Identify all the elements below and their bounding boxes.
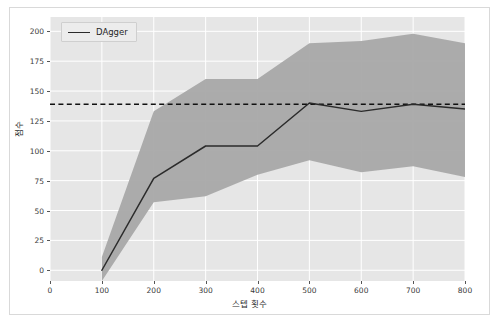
confidence-band bbox=[102, 34, 465, 281]
y-tick-label: 25 bbox=[22, 236, 44, 245]
y-tick-label: 75 bbox=[22, 176, 44, 185]
x-axis-label: 스텝 횟수 bbox=[0, 297, 499, 309]
y-tick-mark bbox=[47, 91, 50, 92]
x-tick-label: 600 bbox=[354, 286, 368, 295]
chart-figure: DAgger 0255075100125150175200 0100200300… bbox=[0, 0, 499, 323]
legend-item-label: DAgger bbox=[96, 27, 128, 37]
y-tick-mark bbox=[47, 61, 50, 62]
plot-region: DAgger bbox=[50, 17, 465, 281]
y-tick-label: 175 bbox=[22, 57, 44, 66]
y-tick-label: 50 bbox=[22, 206, 44, 215]
y-tick-mark bbox=[47, 121, 50, 122]
x-tick-label: 500 bbox=[302, 286, 316, 295]
y-tick-label: 125 bbox=[22, 116, 44, 125]
y-tick-mark bbox=[47, 31, 50, 32]
x-tick-label: 700 bbox=[406, 286, 420, 295]
y-tick-label: 100 bbox=[22, 146, 44, 155]
y-tick-mark bbox=[47, 270, 50, 271]
x-tick-label: 300 bbox=[198, 286, 212, 295]
legend-line-swatch bbox=[68, 32, 90, 33]
x-tick-mark bbox=[413, 281, 414, 284]
x-tick-mark bbox=[154, 281, 155, 284]
chart-legend[interactable]: DAgger bbox=[61, 22, 137, 42]
x-tick-label: 0 bbox=[48, 286, 53, 295]
x-tick-mark bbox=[50, 281, 51, 284]
y-axis-label: 점수 bbox=[12, 121, 24, 137]
x-tick-mark bbox=[361, 281, 362, 284]
y-tick-mark bbox=[47, 151, 50, 152]
chart-svg bbox=[50, 17, 465, 281]
x-tick-mark bbox=[102, 281, 103, 284]
x-tick-mark bbox=[309, 281, 310, 284]
x-tick-label: 100 bbox=[95, 286, 109, 295]
y-tick-mark bbox=[47, 240, 50, 241]
y-tick-label: 200 bbox=[22, 27, 44, 36]
x-tick-label: 800 bbox=[458, 286, 472, 295]
y-tick-label: 150 bbox=[22, 87, 44, 96]
y-tick-mark bbox=[47, 181, 50, 182]
x-tick-mark bbox=[465, 281, 466, 284]
x-tick-mark bbox=[206, 281, 207, 284]
x-tick-mark bbox=[258, 281, 259, 284]
x-tick-label: 200 bbox=[147, 286, 161, 295]
x-tick-label: 400 bbox=[250, 286, 264, 295]
y-tick-label: 0 bbox=[22, 266, 44, 275]
y-tick-mark bbox=[47, 211, 50, 212]
